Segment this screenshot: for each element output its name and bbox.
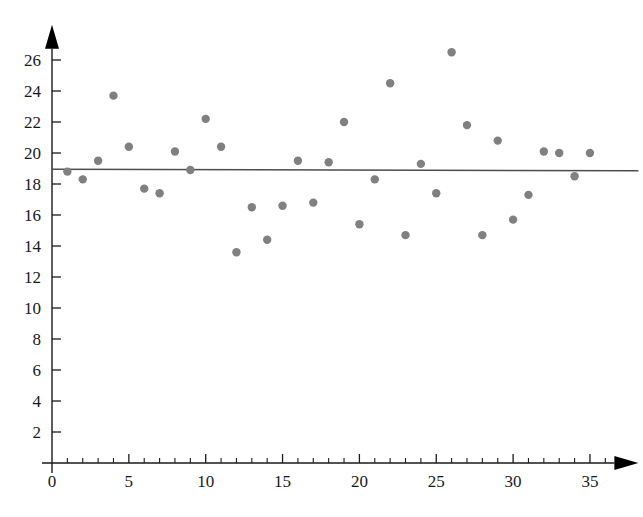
data-point: (32, 20.1) — [540, 147, 548, 155]
data-point: (9, 18.9) — [186, 166, 194, 174]
data-point: (1, 18.8) — [63, 167, 71, 175]
data-point: (34, 18.5) — [570, 172, 578, 180]
y-axis-tick-label: 6 — [33, 361, 42, 380]
x-axis-tick-label: 10 — [197, 472, 214, 491]
y-axis-tick-label: 26 — [24, 51, 41, 70]
x-axis-tick-label: 35 — [581, 472, 598, 491]
data-point: (5, 20.4) — [125, 143, 133, 151]
x-axis-tick-label: 15 — [274, 472, 291, 491]
data-point: (7, 17.4) — [155, 189, 163, 197]
data-point: (15, 16.6) — [278, 202, 286, 210]
data-point-group: (1, 18.8)(2, 18.3)(3, 19.5)(4, 23.7)(5, … — [63, 48, 594, 256]
x-axis-tick-label: 0 — [48, 472, 57, 491]
data-point: (22, 24.5) — [386, 79, 394, 87]
data-point: (11, 20.4) — [217, 143, 225, 151]
data-point: (31, 17.3) — [524, 191, 532, 199]
data-point: (26, 26.5) — [447, 48, 455, 56]
y-axis-arrow-icon — [45, 25, 59, 49]
x-axis-arrow-icon — [614, 456, 638, 470]
data-point: (13, 16.5) — [248, 203, 256, 211]
data-point: (29, 20.8) — [494, 136, 502, 144]
y-axis-tick-label: 4 — [33, 392, 42, 411]
data-point: (12, 13.6) — [232, 248, 240, 256]
data-point: (6, 17.7) — [140, 184, 148, 192]
y-axis-tick-label: 10 — [24, 299, 41, 318]
y-axis-tick-label: 20 — [24, 144, 41, 163]
y-axis-tick-label: 16 — [24, 206, 41, 225]
data-point: (27, 21.8) — [463, 121, 471, 129]
data-point: (2, 18.3) — [79, 175, 87, 183]
data-point: (23, 14.7) — [401, 231, 409, 239]
regression-fit-line — [52, 169, 638, 171]
data-point: (28, 14.7) — [478, 231, 486, 239]
data-point: (16, 19.5) — [294, 157, 302, 165]
x-axis-tick-label: 25 — [428, 472, 445, 491]
x-axis-tick-label: 5 — [125, 472, 134, 491]
data-point: (21, 18.3) — [371, 175, 379, 183]
data-point: (30, 15.7) — [509, 215, 517, 223]
y-axis-tick-label: 22 — [24, 113, 41, 132]
y-axis-tick-label: 18 — [24, 175, 41, 194]
data-point: (3, 19.5) — [94, 157, 102, 165]
x-axis-tick-label: 20 — [351, 472, 368, 491]
y-axis-tick-label: 14 — [24, 237, 42, 256]
scatter-chart-figure: 051015202530352468101214161820222426(1, … — [0, 0, 643, 517]
y-axis-tick-label: 8 — [33, 330, 42, 349]
plot-canvas: 051015202530352468101214161820222426(1, … — [0, 0, 643, 517]
data-point: (4, 23.7) — [109, 91, 117, 99]
data-point: (18, 19.4) — [324, 158, 332, 166]
data-point: (35, 20) — [586, 149, 594, 157]
y-axis-tick-label: 24 — [24, 82, 42, 101]
data-point: (19, 22) — [340, 118, 348, 126]
y-axis-tick-label: 2 — [33, 423, 42, 442]
data-point: (20, 15.4) — [355, 220, 363, 228]
data-point: (24, 19.3) — [417, 160, 425, 168]
data-point: (8, 20.1) — [171, 147, 179, 155]
data-point: (33, 20) — [555, 149, 563, 157]
data-point: (10, 22.2) — [202, 115, 210, 123]
data-point: (14, 14.4) — [263, 236, 271, 244]
data-point: (17, 16.8) — [309, 198, 317, 206]
data-point: (25, 17.4) — [432, 189, 440, 197]
x-axis-tick-label: 30 — [505, 472, 522, 491]
y-axis-tick-label: 12 — [24, 268, 41, 287]
